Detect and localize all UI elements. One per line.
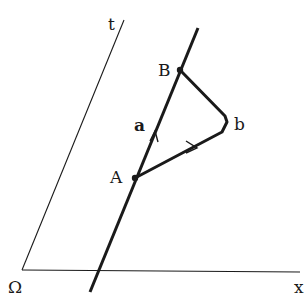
event-a-label: A — [109, 167, 123, 187]
path-b-label: b — [234, 114, 245, 134]
path-b — [135, 70, 227, 178]
path-a-label: a — [134, 115, 145, 135]
t-axis-label: t — [108, 14, 115, 34]
x-axis-label: x — [294, 277, 304, 297]
spacetime-diagram: t x Ω A B a b — [0, 0, 308, 298]
event-a-point — [132, 175, 138, 181]
t-axis — [22, 20, 124, 270]
x-axis — [22, 270, 300, 272]
origin-label: Ω — [8, 277, 22, 297]
event-b-point — [177, 67, 183, 73]
event-b-label: B — [158, 60, 171, 80]
